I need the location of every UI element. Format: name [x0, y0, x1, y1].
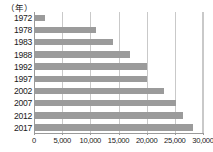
- y-tick-label-1972: 1972: [1, 13, 32, 23]
- bar-2017: [34, 124, 193, 130]
- bar-row: [34, 73, 202, 85]
- bar-2012: [34, 112, 183, 118]
- x-tick-label-10000: 10,000: [80, 136, 101, 145]
- y-tick-label-1997: 1997: [1, 74, 32, 84]
- bar-1978: [34, 27, 96, 33]
- bar-1972: [34, 15, 45, 21]
- y-tick-label-2012: 2012: [1, 111, 32, 121]
- bar-row: [34, 97, 202, 109]
- bar-1997: [34, 76, 147, 82]
- x-tick-label-20000: 20,000: [136, 136, 157, 145]
- x-tick-mark: [203, 133, 204, 135]
- bar-row: [34, 24, 202, 36]
- bar-2002: [34, 88, 164, 94]
- bar-row: [34, 36, 202, 48]
- bar-row: [34, 61, 202, 73]
- plot-area: [34, 12, 203, 134]
- x-tick-mark: [62, 133, 63, 135]
- x-tick-mark: [175, 133, 176, 135]
- bar-row: [34, 85, 202, 97]
- y-tick-label-2007: 2007: [1, 98, 32, 108]
- y-tick-label-2017: 2017: [1, 123, 32, 133]
- x-tick-label-0: 0: [32, 136, 36, 145]
- x-tick-label-25000: 25,000: [164, 136, 185, 145]
- y-axis-unit-caption: （年）: [6, 1, 32, 13]
- x-tick-label-15000: 15,000: [108, 136, 129, 145]
- bar-chart: （年） 197219781983198819921997200220072012…: [0, 0, 213, 152]
- y-tick-label-1988: 1988: [1, 50, 32, 60]
- bar-2007: [34, 100, 176, 106]
- bar-1992: [34, 63, 147, 69]
- y-tick-label-1983: 1983: [1, 37, 32, 47]
- x-tick-mark: [90, 133, 91, 135]
- bar-1988: [34, 51, 130, 57]
- bar-row: [34, 12, 202, 24]
- x-tick-label-30000: 30,000: [192, 136, 213, 145]
- y-tick-label-1978: 1978: [1, 25, 32, 35]
- gridline-30000: [203, 12, 204, 134]
- x-tick-label-5000: 5,000: [53, 136, 71, 145]
- bar-row: [34, 110, 202, 122]
- y-axis-line: [34, 12, 35, 134]
- x-tick-mark: [34, 133, 35, 135]
- y-tick-label-1992: 1992: [1, 62, 32, 72]
- bar-1983: [34, 39, 113, 45]
- x-tick-mark: [119, 133, 120, 135]
- bar-row: [34, 49, 202, 61]
- y-tick-label-2002: 2002: [1, 86, 32, 96]
- x-tick-mark: [147, 133, 148, 135]
